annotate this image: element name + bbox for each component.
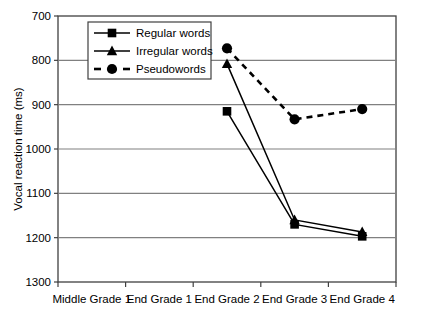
legend-item-label: Pseudowords bbox=[136, 63, 206, 75]
chart-legend: Regular wordsIrregular wordsPseudowords bbox=[88, 22, 213, 79]
legend-entries: Regular wordsIrregular wordsPseudowords bbox=[94, 27, 213, 75]
x-axis-category-label: End Grade 2 bbox=[194, 293, 259, 305]
data-point-marker bbox=[222, 43, 232, 53]
chart-container: 1300120011001000900800700 Middle Grade 1… bbox=[0, 0, 421, 317]
y-axis-tick-label: 1300 bbox=[25, 276, 51, 288]
circle-marker-icon bbox=[107, 64, 117, 74]
y-axis-tick-label: 1200 bbox=[25, 232, 51, 244]
x-axis-category-labels: Middle Grade 1End Grade 1End Grade 2End … bbox=[52, 293, 395, 305]
data-point-marker bbox=[223, 107, 232, 116]
y-axis-tick-label: 900 bbox=[32, 99, 51, 111]
x-axis-category-label: Middle Grade 1 bbox=[52, 293, 131, 305]
legend-item-label: Irregular words bbox=[136, 45, 213, 57]
data-point-marker bbox=[357, 104, 367, 114]
y-axis-tick-label: 1000 bbox=[25, 143, 51, 155]
x-axis-category-label: End Grade 1 bbox=[127, 293, 192, 305]
y-axis-tick-label: 1100 bbox=[26, 187, 51, 199]
legend-item-label: Regular words bbox=[136, 27, 210, 39]
square-marker-icon bbox=[108, 29, 117, 38]
data-point-marker bbox=[290, 114, 300, 124]
line-chart: 1300120011001000900800700 Middle Grade 1… bbox=[0, 0, 421, 317]
y-axis-tick-label: 800 bbox=[32, 54, 51, 66]
x-axis-category-label: End Grade 4 bbox=[330, 293, 396, 305]
x-axis-category-label: End Grade 3 bbox=[262, 293, 327, 305]
y-axis-title: Vocal reaction time (ms) bbox=[12, 87, 24, 211]
y-axis-tick-label: 700 bbox=[32, 10, 51, 22]
